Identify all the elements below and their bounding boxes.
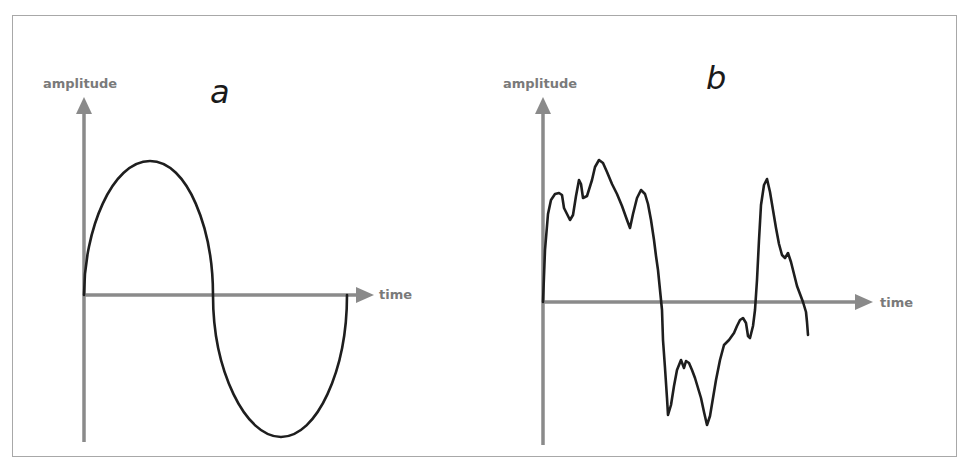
panel-a-x-axis-arrow-icon xyxy=(356,287,374,303)
panel-a-letter: a xyxy=(210,73,230,111)
panel-a-sine-wave xyxy=(84,161,347,437)
panel-b: amplitude b time xyxy=(503,59,913,445)
panel-a-x-axis-label: time xyxy=(379,287,412,302)
panel-a-y-axis-label: amplitude xyxy=(43,76,117,91)
panel-b-complex-waveform xyxy=(543,160,808,425)
panel-a-y-axis-arrow-icon xyxy=(76,97,92,114)
panel-a: amplitude a time xyxy=(43,73,412,442)
panel-b-x-axis-arrow-icon xyxy=(855,294,873,310)
panel-b-letter: b xyxy=(706,59,726,97)
figure-canvas: amplitude a time amplitude b time xyxy=(0,0,970,474)
panel-b-y-axis-arrow-icon xyxy=(535,97,551,114)
panel-b-y-axis-label: amplitude xyxy=(503,76,577,91)
panel-b-x-axis-label: time xyxy=(880,295,913,310)
